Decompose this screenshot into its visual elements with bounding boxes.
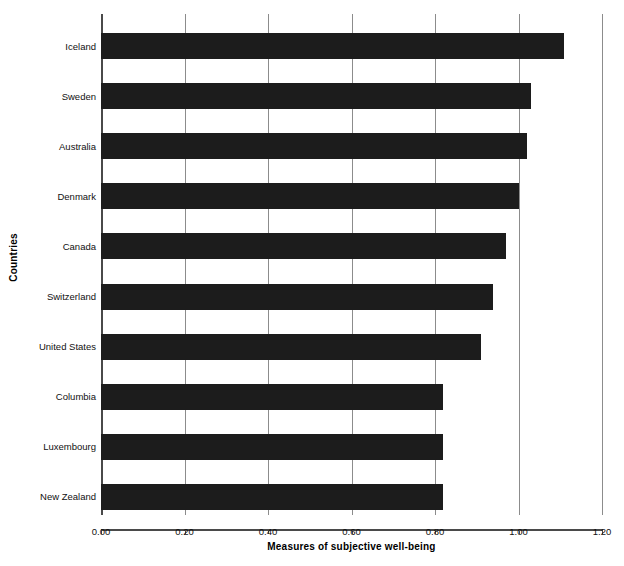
y-tick-label: Switzerland xyxy=(26,291,96,302)
gridline-1.20 xyxy=(602,14,603,515)
x-tick-label: 0.00 xyxy=(81,526,121,537)
bar xyxy=(101,434,443,460)
bar xyxy=(101,83,531,109)
x-tick-label: 1.00 xyxy=(499,526,539,537)
y-tick-label: Columbia xyxy=(26,391,96,402)
bar xyxy=(101,384,443,410)
plot-area xyxy=(101,14,602,515)
bar xyxy=(101,183,519,209)
y-axis-title: Countries xyxy=(0,0,26,515)
y-tick-label: United States xyxy=(26,341,96,352)
x-axis-title: Measures of subjective well-being xyxy=(101,541,602,552)
y-tick-label: Canada xyxy=(26,241,96,252)
y-axis-tick-labels: IcelandSwedenAustraliaDenmarkCanadaSwitz… xyxy=(26,14,96,515)
y-axis-title-text: Countries xyxy=(8,233,19,281)
y-tick-label: Luxembourg xyxy=(26,441,96,452)
bar xyxy=(101,33,564,59)
y-tick-label: Australia xyxy=(26,141,96,152)
bar xyxy=(101,284,493,310)
bar xyxy=(101,334,481,360)
x-tick-label: 0.40 xyxy=(248,526,288,537)
y-tick-label: Denmark xyxy=(26,191,96,202)
y-tick-label: Sweden xyxy=(26,91,96,102)
y-tick-label: Iceland xyxy=(26,41,96,52)
bar-chart: Countries IcelandSwedenAustraliaDenmarkC… xyxy=(0,0,624,566)
bar xyxy=(101,484,443,510)
x-tick-label: 0.20 xyxy=(165,526,205,537)
bar xyxy=(101,133,527,159)
bar xyxy=(101,233,506,259)
y-tick-label: New Zealand xyxy=(26,491,96,502)
x-tick-label: 1.20 xyxy=(582,526,622,537)
x-tick-label: 0.60 xyxy=(332,526,372,537)
x-tick-label: 0.80 xyxy=(415,526,455,537)
